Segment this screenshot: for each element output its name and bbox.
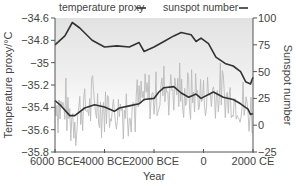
legend: temperature proxy sunspot number xyxy=(59,1,248,13)
left-tick-label: −35.2 xyxy=(21,79,49,91)
right-tick-label: 50 xyxy=(258,66,270,78)
left-tick-label: −35.4 xyxy=(21,101,49,113)
right-axis-title: Sunspot number xyxy=(282,45,294,126)
left-axis-ticks: −34.6−34.8−35−35.2−35.4−35.6−35.8 xyxy=(21,12,55,158)
right-tick-label: 75 xyxy=(258,39,270,51)
left-axis-title: Temperature proxy/°C xyxy=(2,31,14,138)
left-tick-label: −34.6 xyxy=(21,12,49,24)
left-tick-label: −34.8 xyxy=(21,34,49,46)
right-axis-ticks: 1007550250−25 xyxy=(253,12,277,158)
plot-background xyxy=(55,18,253,152)
x-tick-label: 4000 BCE xyxy=(79,155,129,167)
x-tick-label: 2000 BCE xyxy=(129,155,179,167)
legend-temperature-label: temperature proxy xyxy=(59,1,145,13)
x-tick-label: 0 xyxy=(200,155,206,167)
x-tick-label: 2000 CE xyxy=(232,155,275,167)
chart: −34.6−34.8−35−35.2−35.4−35.6−35.8 100755… xyxy=(0,0,296,186)
right-tick-label: 25 xyxy=(258,92,270,104)
left-tick-label: −35.6 xyxy=(21,124,49,136)
x-axis-title: Year xyxy=(143,170,166,182)
right-tick-label: 0 xyxy=(258,119,264,131)
legend-sunspot-label: sunspot number xyxy=(163,1,239,13)
x-tick-label: 6000 BCE xyxy=(30,155,80,167)
right-tick-label: 100 xyxy=(258,12,276,24)
left-tick-label: −35 xyxy=(30,57,49,69)
